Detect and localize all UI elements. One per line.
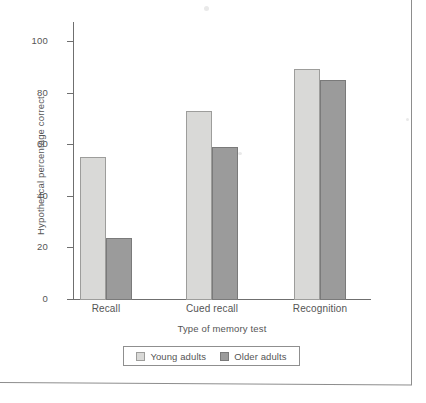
x-category-label-recognition: Recognition bbox=[270, 303, 370, 315]
y-tick-mark-40 bbox=[67, 196, 73, 197]
legend-label-young-adults: Young adults bbox=[150, 351, 206, 362]
y-tick-label-0: 0 bbox=[8, 294, 48, 304]
bar-older-recall bbox=[106, 238, 132, 300]
bar-young-recognition bbox=[294, 69, 320, 300]
bar-young-recall bbox=[80, 157, 106, 300]
bar-chart: 0 20 40 60 80 100 Hypothetical percentag… bbox=[0, 0, 412, 382]
y-tick-label-100: 100 bbox=[8, 36, 48, 46]
bar-older-cued-recall bbox=[212, 147, 238, 300]
legend-label-older-adults: Older adults bbox=[234, 351, 286, 362]
x-category-label-recall: Recall bbox=[56, 303, 156, 315]
y-tick-mark-60 bbox=[67, 144, 73, 145]
x-axis-title: Type of memory test bbox=[73, 323, 371, 334]
chart-legend: Young adults Older adults bbox=[123, 346, 300, 366]
x-category-label-cued-recall: Cued recall bbox=[162, 303, 262, 315]
legend-swatch-icon-young-adults bbox=[136, 352, 145, 361]
page-border-bottom bbox=[0, 382, 412, 386]
y-axis-line bbox=[73, 22, 74, 300]
y-axis-title: Hypothetical percentage correct bbox=[35, 51, 46, 281]
bar-older-recognition bbox=[320, 80, 346, 300]
legend-entry-older-adults: Older adults bbox=[220, 351, 286, 362]
bar-young-cued-recall bbox=[186, 111, 212, 300]
y-tick-mark-80 bbox=[67, 93, 73, 94]
y-tick-mark-100 bbox=[67, 41, 73, 42]
y-tick-mark-20 bbox=[67, 247, 73, 248]
legend-entry-young-adults: Young adults bbox=[136, 351, 206, 362]
legend-swatch-icon-older-adults bbox=[220, 352, 229, 361]
y-tick-mark-0 bbox=[67, 299, 73, 300]
